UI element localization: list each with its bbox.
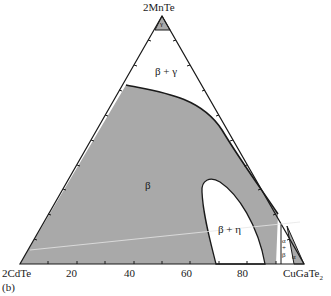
vertex-label-left: 2CdTe: [2, 268, 31, 279]
vertex-label-right-sub: 2: [320, 274, 324, 282]
phase-label-beta-eta: β + η: [218, 224, 241, 235]
tick-label-60: 60: [181, 268, 192, 279]
vertex-label-right-main: CuGaTe: [283, 267, 320, 279]
phase-label-alpha-beta-b: β: [282, 252, 286, 259]
panel-label: (b): [2, 282, 15, 293]
phase-label-alpha: α: [292, 254, 296, 261]
phase-label-beta-gamma: β + γ: [155, 66, 177, 77]
phase-label-beta: β: [145, 180, 151, 191]
vertex-label-top: 2MnTe: [143, 2, 175, 13]
phase-label-gamma: γ: [160, 21, 163, 28]
tick-label-80: 80: [237, 268, 248, 279]
ternary-phase-diagram: 2MnTe 2CdTe CuGaTe2 (b) 20 40 60 80 γ β …: [0, 0, 331, 296]
tick-label-20: 20: [66, 268, 77, 279]
vertex-label-right: CuGaTe2: [283, 268, 323, 282]
tick-label-40: 40: [124, 268, 135, 279]
